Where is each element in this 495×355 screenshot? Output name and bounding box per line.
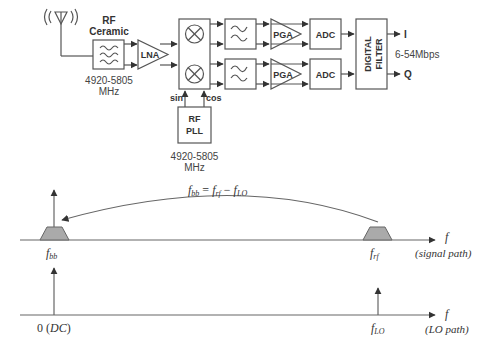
adc-i-label: ADC [316, 30, 336, 40]
rf-filter-freq-line1: 4920-5805 [85, 75, 133, 86]
flo-label: fLO [371, 321, 385, 336]
channel-q: PGA ADC [210, 59, 354, 89]
frf-label: frf [370, 246, 380, 261]
dc-label: 0 (DC) [37, 321, 71, 335]
baseband-signal-shape [40, 227, 69, 240]
pll-freq-line1: 4920-5805 [171, 151, 219, 162]
rf-signal-shape [363, 227, 392, 240]
lo-axis-f-label: f [445, 307, 450, 321]
channel-i: PGA ADC [210, 19, 354, 49]
digital-filter: DIGITAL FILTER I Q 6-54Mbps [356, 19, 439, 89]
signal-path-spectrum: fbb = frf − fLO f (signal path) fbb frf [20, 183, 472, 261]
signal-axis-f-label: f [445, 230, 450, 244]
signal-path-label: (signal path) [415, 247, 472, 260]
rf-filter-title-line1: RF [102, 15, 115, 26]
pll-line2: PLL [186, 126, 204, 136]
pll-freq-line2: MHz [184, 162, 205, 173]
downconversion-arrow [62, 195, 378, 222]
adc-q-label: ADC [316, 70, 336, 80]
pll-line1: RF [189, 114, 201, 124]
rf-filter-title-line2: Ceramic [89, 26, 129, 37]
digital-filter-line1: DIGITAL [363, 36, 373, 72]
lo-path-label: (LO path) [425, 323, 469, 336]
lna-label: LNA [141, 50, 160, 60]
cos-label: cos [206, 93, 222, 103]
receiver-diagram: RF Ceramic 4920-5805 MHz LNA sin [0, 0, 495, 355]
output-i-label: I [404, 29, 407, 40]
rf-filter-freq-line2: MHz [99, 86, 120, 97]
lo-path-spectrum: f (LO path) 0 (DC) fLO [20, 268, 469, 336]
digital-filter-line2: FILTER [374, 38, 384, 69]
fbb-label: fbb [46, 246, 57, 261]
pga-q-label: PGA [273, 70, 293, 80]
antenna-icon [45, 9, 94, 56]
sin-label: sin [170, 93, 183, 103]
quadrature-mixer: sin cos [170, 19, 222, 103]
pga-i-label: PGA [273, 30, 293, 40]
data-rate-label: 6-54Mbps [395, 49, 439, 60]
downconversion-equation: fbb = frf − fLO [188, 183, 247, 198]
output-q-label: Q [404, 69, 412, 80]
rf-pll: RF PLL 4920-5805 MHz [171, 107, 219, 173]
